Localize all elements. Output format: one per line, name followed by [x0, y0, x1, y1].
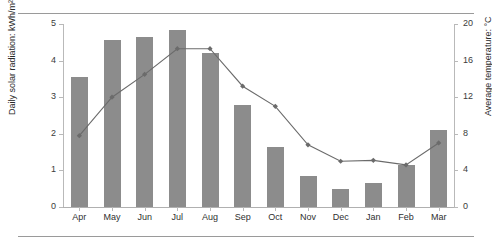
category-label-jul: Jul — [172, 212, 184, 222]
chart-figure: Daily solar radiation: kWh/m²/d Average … — [0, 0, 492, 243]
left-tick-label: 1 — [51, 165, 56, 174]
right-tick-label: 0 — [463, 202, 468, 211]
left-tick-label: 2 — [51, 129, 56, 138]
left-axis-title: Daily solar radiation: kWh/m²/d — [8, 0, 17, 115]
temperature-marker-jan — [371, 158, 376, 163]
right-axis-title: Average temperature: °C — [484, 17, 492, 116]
temperature-line-path — [79, 49, 438, 165]
category-label-jan: Jan — [366, 212, 381, 222]
temperature-line-series — [63, 24, 455, 208]
category-label-aug: Aug — [202, 212, 218, 222]
category-label-feb: Feb — [398, 212, 414, 222]
left-tick-label: 3 — [51, 92, 56, 101]
category-label-sep: Sep — [235, 212, 251, 222]
figure-bottom-rule — [18, 236, 474, 237]
right-tick-label: 12 — [463, 92, 473, 101]
temperature-marker-dec — [338, 159, 343, 164]
category-label-oct: Oct — [268, 212, 282, 222]
category-label-dec: Dec — [333, 212, 349, 222]
right-tick-label: 20 — [463, 19, 473, 28]
plot-area: 012345 048121620 AprMayJunJulAugSepOctNo… — [63, 24, 455, 207]
category-label-apr: Apr — [72, 212, 86, 222]
category-label-jun: Jun — [137, 212, 152, 222]
left-tick-label: 5 — [51, 19, 56, 28]
right-tick-label: 8 — [463, 129, 468, 138]
category-label-mar: Mar — [431, 212, 447, 222]
figure-top-rule — [18, 13, 474, 14]
right-tick-label: 16 — [463, 56, 473, 65]
category-label-may: May — [103, 212, 120, 222]
left-tick-label: 0 — [51, 202, 56, 211]
left-tick-label: 4 — [51, 56, 56, 65]
category-label-nov: Nov — [300, 212, 316, 222]
right-tick-label: 4 — [463, 165, 468, 174]
